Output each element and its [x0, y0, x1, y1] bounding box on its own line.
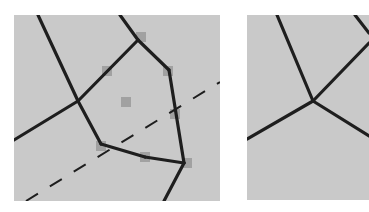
right-panel [247, 15, 369, 200]
panel-background [14, 15, 220, 201]
panel-background [247, 15, 369, 200]
voronoi-diagram [0, 0, 369, 212]
left-panel [14, 15, 220, 201]
site-marker [121, 97, 131, 107]
